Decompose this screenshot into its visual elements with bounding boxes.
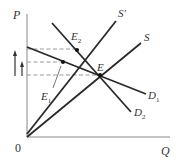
y-axis-label: P xyxy=(12,8,21,22)
point-e xyxy=(98,73,102,77)
arrow-up-short-icon xyxy=(20,61,24,76)
e1-leader-line xyxy=(53,66,61,88)
label-e1: E1 xyxy=(40,90,52,105)
point-e1 xyxy=(61,60,65,64)
label-s: S xyxy=(144,31,150,43)
point-e2 xyxy=(75,48,79,52)
label-e2: E2 xyxy=(70,30,82,45)
label-s-prime: S′ xyxy=(118,7,127,19)
label-d1: D1 xyxy=(147,89,160,104)
label-d2: D2 xyxy=(133,106,146,121)
demand-curve-d2 xyxy=(52,23,131,112)
supply-demand-diagram: P Q 0 S S′ D1 D2 E E1 E2 xyxy=(0,0,178,163)
label-e: E xyxy=(96,61,104,73)
origin-label: 0 xyxy=(15,141,21,155)
x-axis-label: Q xyxy=(161,144,170,158)
arrow-up-long-icon xyxy=(13,50,17,76)
